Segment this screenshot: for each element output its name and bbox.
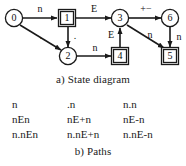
node-0-label: 0 bbox=[12, 12, 17, 23]
path-cell: n.nE+n bbox=[67, 127, 123, 142]
path-cell: nE-n bbox=[123, 112, 183, 127]
caption-b-tag: b) bbox=[75, 145, 84, 157]
edge-label-3-to-6: +− bbox=[140, 3, 152, 14]
edge-label-1-to-3: E bbox=[91, 3, 97, 14]
edge-label-2-to-4: n bbox=[93, 42, 98, 53]
edge-label-6-to-5: n bbox=[177, 31, 182, 42]
node-6[interactable]: 6 bbox=[161, 9, 178, 26]
path-cell: n bbox=[12, 97, 67, 112]
node-2[interactable]: 2 bbox=[59, 47, 76, 64]
path-cell: .n bbox=[67, 97, 123, 112]
node-4-label: 4 bbox=[118, 50, 123, 61]
table-row: n.nEn n.nE+n n.nE-n bbox=[12, 127, 183, 142]
table-row: nEn nE+n nE-n bbox=[12, 112, 183, 127]
node-2-label: 2 bbox=[66, 50, 71, 61]
node-4[interactable]: 4 bbox=[112, 48, 129, 65]
figure-container: 0 1 3 6 2 bbox=[0, 0, 186, 166]
path-cell: n.n bbox=[123, 97, 183, 112]
caption-paths: b)Paths bbox=[0, 145, 186, 157]
node-1-label: 1 bbox=[65, 12, 70, 23]
node-3[interactable]: 3 bbox=[111, 9, 128, 26]
node-0[interactable]: 0 bbox=[5, 9, 22, 26]
caption-b-text: Paths bbox=[87, 145, 111, 157]
paths-table: n .n n.n nEn nE+n nE-n n.nEn n.nE+n n.nE… bbox=[0, 97, 186, 142]
edge-3-to-5 bbox=[127, 25, 164, 48]
caption-state-diagram: a)State diagram bbox=[0, 73, 186, 85]
edge-label-0-to-2: . bbox=[40, 30, 43, 41]
node-3-label: 3 bbox=[118, 12, 123, 23]
node-1[interactable]: 1 bbox=[59, 10, 76, 27]
path-cell: nEn bbox=[12, 112, 67, 127]
caption-a-text: State diagram bbox=[68, 73, 130, 85]
node-5[interactable]: 5 bbox=[162, 48, 179, 65]
path-cell: n.nE-n bbox=[123, 127, 183, 142]
path-cell: nE+n bbox=[67, 112, 123, 127]
node-5-label: 5 bbox=[168, 50, 173, 61]
node-6-label: 6 bbox=[168, 12, 173, 23]
edge-label-1-to-2: . bbox=[74, 30, 77, 41]
edge-label-0-to-1: n bbox=[38, 3, 43, 14]
edge-label-3-to-5: n bbox=[148, 29, 153, 40]
caption-a-tag: a) bbox=[56, 73, 65, 85]
edge-label-4-to-3: E bbox=[108, 29, 114, 40]
path-cell: n.nEn bbox=[12, 127, 67, 142]
table-row: n .n n.n bbox=[12, 97, 183, 112]
state-diagram: 0 1 3 6 2 bbox=[0, 0, 186, 70]
